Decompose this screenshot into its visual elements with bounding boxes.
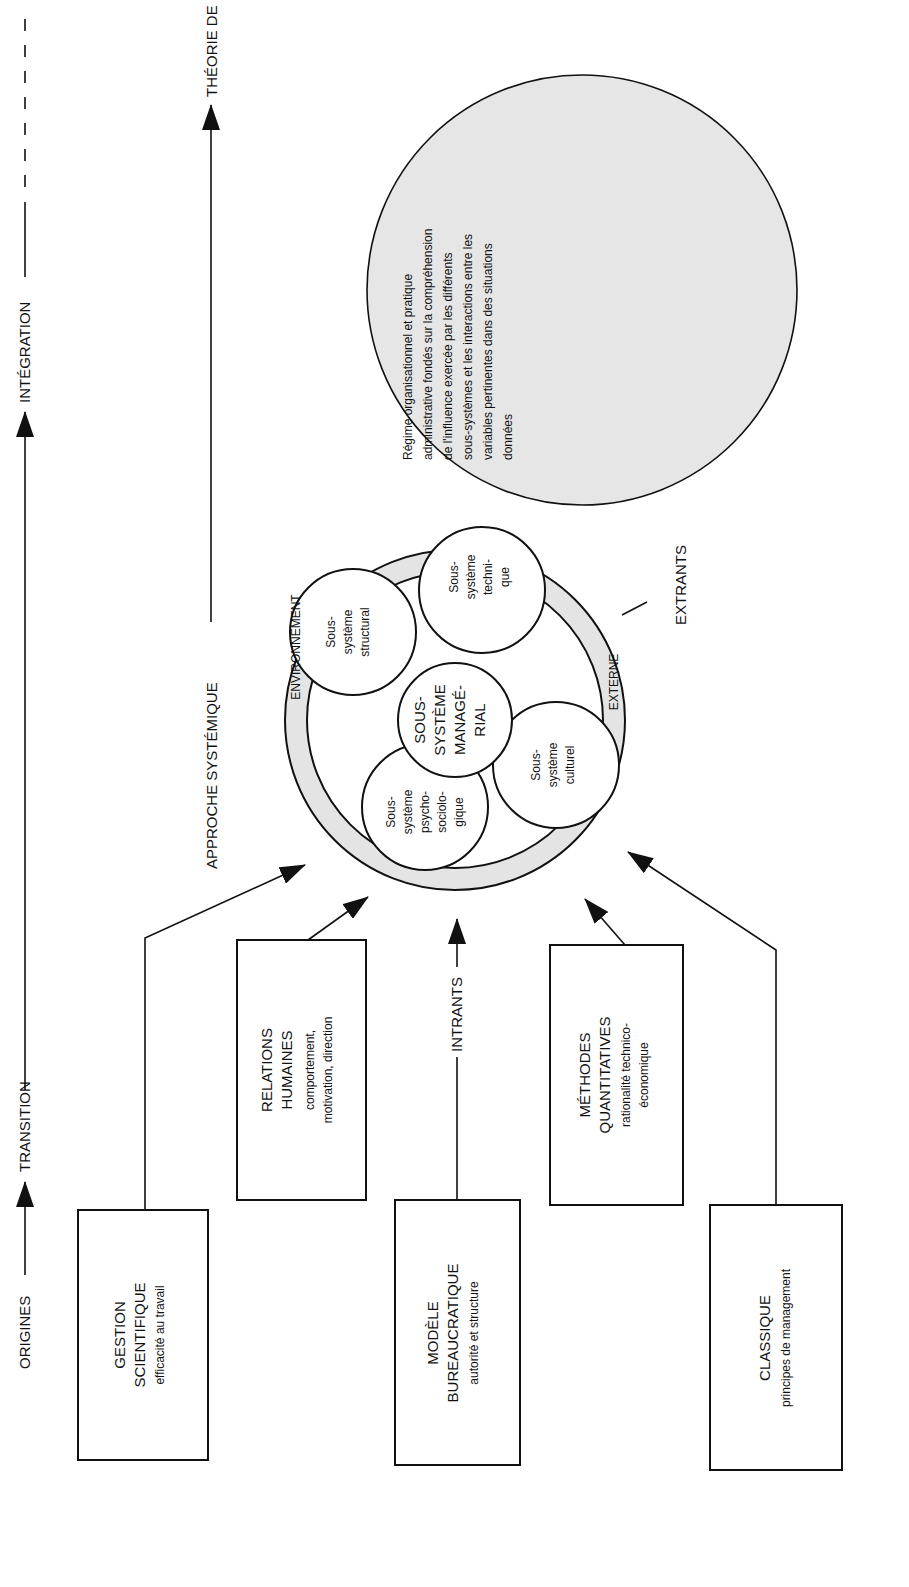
svg-text:GESTION: GESTION [111,1301,128,1369]
svg-text:efficacité au travail: efficacité au travail [153,1285,167,1384]
svg-text:système: système [464,554,478,599]
svg-text:de l'influence exercée par les: de l'influence exercée par les différent… [441,252,455,460]
svg-text:MODÈLE: MODÈLE [424,1301,441,1364]
outputs-tick [622,602,647,615]
label-transition: TRANSITION [16,1081,33,1172]
svg-text:BUREAUCRATIQUE: BUREAUCRATIQUE [444,1264,461,1403]
timeline: ORIGINES TRANSITION INTÉGRATION [16,17,33,1369]
svg-text:principes de management: principes de management [779,1268,793,1407]
diagram-canvas: ORIGINES TRANSITION INTÉGRATION APPROCHE… [0,0,909,1587]
svg-text:sociolo-: sociolo- [435,791,449,832]
svg-text:sous-systèmes et les interacti: sous-systèmes et les interactions entre … [461,234,475,460]
label-inputs: INTRANTS [448,977,465,1052]
label-systemic-approach: APPROCHE SYSTÉMIQUE [203,682,220,869]
svg-text:psycho-: psycho- [418,791,432,833]
box-scientific-management: GESTION SCIENTIFIQUE efficacité au trava… [78,1210,208,1460]
label-external: EXTERNE [607,654,621,711]
svg-text:variables pertinentes dans des: variables pertinentes dans des situation… [481,243,495,460]
label-environment: ENVIRONNEMENT [289,594,303,700]
box-bureaucratic-model: MODÈLE BUREAUCRATIQUE autorité et struct… [395,1200,520,1465]
svg-text:culturel: culturel [563,746,577,785]
svg-text:motivation, direction: motivation, direction [321,1017,335,1124]
svg-text:Sous-: Sous- [384,796,398,827]
svg-text:MÉTHODES: MÉTHODES [576,1032,593,1117]
system-circle: SOUS- SYSTÈME MANAGÉ- RIAL Sous- système… [285,527,625,890]
svg-text:techni-: techni- [481,559,495,595]
svg-text:que: que [498,567,512,587]
label-integration: INTÉGRATION [16,302,33,403]
approach-row: APPROCHE SYSTÉMIQUE THÉORIE DE LA CONTIN… [203,0,220,869]
label-contingency-theory: THÉORIE DE LA CONTINGENCE [203,0,220,97]
svg-text:administrative fondés sur la c: administrative fondés sur la compréhensi… [421,229,435,460]
svg-text:CLASSIQUE: CLASSIQUE [756,1295,773,1381]
svg-text:Sous-: Sous- [529,749,543,780]
connector-human-relations [308,897,368,940]
label-outputs: EXTRANTS [672,545,689,625]
box-classical: CLASSIQUE principes de management [710,1205,842,1470]
svg-text:système: système [341,609,355,654]
svg-text:Régime organisationnel et prat: Régime organisationnel et pratique [401,274,415,460]
connector-quantitative-methods [585,899,625,945]
svg-text:Sous-: Sous- [447,561,461,592]
svg-text:MANAGÉ-: MANAGÉ- [451,685,468,755]
svg-text:RELATIONS: RELATIONS [258,1028,275,1112]
svg-text:rationalité technico-: rationalité technico- [619,1023,633,1127]
svg-text:données: données [501,414,515,460]
svg-text:SYSTÈME: SYSTÈME [431,684,448,756]
svg-text:SCIENTIFIQUE: SCIENTIFIQUE [131,1282,148,1387]
svg-text:autorité et structure: autorité et structure [467,1281,481,1385]
svg-text:SOUS-: SOUS- [411,696,428,744]
label-origins: ORIGINES [16,1296,33,1369]
svg-text:système: système [401,789,415,834]
svg-text:HUMAINES: HUMAINES [278,1030,295,1109]
svg-text:QUANTITATIVES: QUANTITATIVES [596,1017,613,1134]
box-quantitative-methods: MÉTHODES QUANTITATIVES rationalité techn… [550,945,683,1205]
svg-text:RIAL: RIAL [471,703,488,736]
svg-text:économique: économique [637,1042,651,1108]
svg-text:Sous-: Sous- [324,616,338,647]
contingency-circle: Régime organisationnel et pratique admin… [367,75,797,505]
box-human-relations: RELATIONS HUMAINES comportement, motivat… [237,940,366,1200]
svg-text:comportement,: comportement, [303,1030,317,1110]
svg-text:système: système [546,742,560,787]
svg-text:gique: gique [452,797,466,827]
svg-text:structural: structural [358,607,372,656]
